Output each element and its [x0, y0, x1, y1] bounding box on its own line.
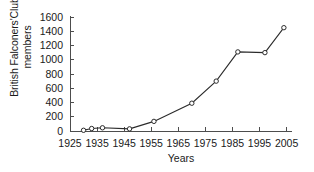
x-tick-label: 1995	[248, 137, 272, 149]
x-tick-label: 1935	[85, 137, 109, 149]
y-tick-label: 1200	[40, 39, 64, 51]
data-point-marker	[214, 79, 218, 83]
data-point-marker	[81, 128, 85, 132]
y-tick-label: 600	[45, 82, 63, 94]
data-point-marker	[100, 126, 104, 130]
data-point-marker	[190, 101, 194, 105]
x-tick-label: 1955	[140, 137, 164, 149]
data-point-marker	[127, 127, 131, 131]
plot-area: 02004006008001000120014001600 1925193519…	[0, 0, 314, 172]
y-tick-label: 1000	[40, 53, 64, 65]
data-point-marker	[236, 50, 240, 54]
y-tick-label: 0	[57, 125, 63, 137]
chart-figure: British Falconers'Club members Years 020…	[0, 0, 314, 172]
y-tick-label: 1600	[40, 11, 64, 23]
x-tick-label: 2005	[275, 137, 299, 149]
y-axis-tick-labels: 02004006008001000120014001600	[40, 11, 64, 137]
y-axis-tick-marks	[70, 17, 74, 131]
x-tick-label: 1925	[58, 137, 82, 149]
x-axis-tick-labels: 192519351945195519651975198519952005	[58, 137, 298, 149]
data-point-marker	[263, 50, 267, 54]
y-tick-label: 200	[45, 110, 63, 122]
y-tick-label: 400	[45, 96, 63, 108]
x-tick-label: 1975	[194, 137, 218, 149]
data-point-marker	[152, 119, 156, 123]
data-point-marker	[89, 126, 93, 130]
x-tick-label: 1945	[112, 137, 136, 149]
data-point-markers	[81, 25, 286, 132]
data-point-marker	[282, 25, 286, 29]
data-series-line	[84, 28, 284, 131]
x-tick-label: 1965	[167, 137, 191, 149]
y-tick-label: 800	[45, 68, 63, 80]
y-tick-label: 1400	[40, 25, 64, 37]
x-tick-label: 1985	[221, 137, 245, 149]
